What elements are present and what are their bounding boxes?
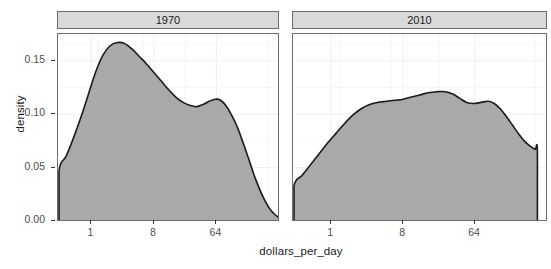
x-tick-label: 64 [454,226,494,238]
density-curve-svg [293,34,547,221]
y-tick-mark [51,220,55,221]
x-axis-title: dollars_per_day [57,245,545,257]
y-axis-ticks: 0.000.050.100.15 [0,0,45,269]
x-tick-label: 1 [70,226,110,238]
y-tick-mark [51,167,55,168]
facet-panel-1970 [57,33,279,221]
density-area-fill [59,42,279,221]
x-tick-label: 8 [382,226,422,238]
facet-panel-2010 [292,33,547,221]
y-tick-mark [51,113,55,114]
x-tick-mark [153,220,154,224]
y-tick-mark [51,60,55,61]
density-area-fill [294,91,537,221]
y-tick-label: 0.15 [11,53,45,65]
x-tick-mark [474,220,475,224]
x-tick-label: 64 [195,226,235,238]
facet-strip-1970: 1970 [57,11,279,29]
x-tick-label: 8 [133,226,173,238]
x-tick-mark [402,220,403,224]
facet-strip-2010: 2010 [292,11,547,29]
x-tick-mark [330,220,331,224]
density-plot-figure: density dollars_per_day 0.000.050.100.15… [0,0,551,269]
y-tick-label: 0.05 [11,160,45,172]
y-tick-label: 0.00 [11,213,45,225]
x-tick-mark [90,220,91,224]
y-tick-label: 0.10 [11,106,45,118]
density-curve-svg [58,34,279,221]
x-tick-label: 1 [310,226,350,238]
facet-strip-label: 1970 [156,14,180,26]
x-tick-mark [215,220,216,224]
facet-strip-label: 2010 [407,14,431,26]
